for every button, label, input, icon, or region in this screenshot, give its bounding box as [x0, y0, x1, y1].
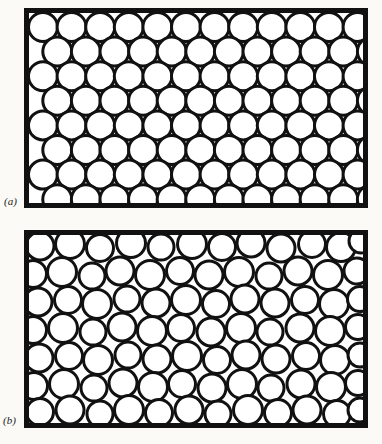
amorphous-sphere-69: [287, 370, 315, 398]
amorphous-sphere-50: [84, 346, 113, 375]
panel-a-label: (a): [4, 196, 17, 207]
figure-root: (a) (b): [0, 0, 382, 444]
amorphous-sphere-55: [232, 341, 260, 369]
amorphous-sphere-30: [203, 291, 230, 318]
amorphous-sphere-17: [167, 258, 194, 285]
amorphous-sphere-20: [256, 263, 282, 289]
amorphous-sphere-56: [262, 345, 290, 373]
amorphous-sphere-33: [292, 287, 319, 314]
amorphous-sphere-26: [83, 290, 112, 319]
amorphous-sphere-15: [106, 257, 134, 285]
amorphous-sphere-44: [257, 319, 283, 345]
amorphous-sphere-32: [261, 289, 289, 317]
amorphous-sphere-28: [142, 289, 170, 317]
amorphous-sphere-22: [314, 261, 343, 290]
amorphous-sphere-45: [286, 314, 314, 342]
amorphous-sphere-73: [56, 396, 84, 424]
amorphous-sphere-27: [114, 286, 140, 312]
amorphous-sphere-29: [172, 286, 201, 315]
amorphous-sphere-39: [108, 313, 136, 341]
amorphous-sphere-2: [87, 235, 114, 262]
amorphous-sphere-53: [173, 342, 202, 371]
amorphous-sphere-77: [175, 396, 203, 424]
amorphous-sphere-52: [143, 345, 171, 373]
amorphous-sphere-57: [293, 343, 320, 370]
amorphous-sphere-80: [265, 400, 292, 427]
amorphous-sphere-62: [81, 375, 107, 401]
amorphous-sphere-63: [109, 369, 137, 397]
amorphous-sphere-14: [79, 263, 105, 289]
amorphous-sphere-58: [321, 346, 350, 375]
amorphous-sphere-48: [25, 344, 53, 372]
amorphous-sphere-75: [115, 396, 144, 425]
amorphous-sphere-65: [169, 371, 196, 398]
amorphous-sphere-6: [209, 234, 236, 261]
amorphous-sphere-61: [50, 370, 79, 399]
panel-b-label: (b): [3, 415, 16, 426]
amorphous-sphere-25: [55, 287, 82, 314]
amorphous-sphere-68: [258, 375, 284, 401]
amorphous-sphere-13: [48, 258, 77, 287]
amorphous-sphere-31: [231, 285, 259, 313]
amorphous-sphere-40: [138, 317, 167, 346]
amorphous-sphere-49: [56, 343, 83, 370]
amorphous-sphere-54: [204, 347, 231, 374]
crystalline-structure-panel: [24, 8, 368, 208]
amorphous-sphere-41: [168, 315, 195, 342]
amorphous-sphere-79: [234, 396, 263, 425]
amorphous-sphere-46: [316, 317, 345, 346]
amorphous-sphere-37: [49, 314, 78, 343]
amorphous-sphere-42: [197, 318, 225, 346]
crystalline-packing-diagram: [24, 8, 368, 208]
crystalline-sphere-group: [29, 13, 369, 209]
amorphous-sphere-18: [195, 261, 223, 289]
amorphous-sphere-19: [225, 258, 254, 287]
amorphous-sphere-4: [148, 234, 174, 260]
amorphous-sphere-81: [293, 396, 321, 424]
amorphous-sphere-38: [80, 319, 106, 345]
amorphous-sphere-0: [26, 232, 54, 260]
amorphous-sphere-72: [27, 399, 54, 426]
amorphous-sphere-66: [198, 374, 226, 402]
amorphous-sphere-70: [317, 373, 346, 402]
amorphous-sphere-64: [139, 373, 168, 402]
amorphous-sphere-16: [136, 261, 165, 290]
amorphous-sphere-21: [284, 257, 312, 285]
amorphous-sphere-67: [228, 370, 257, 399]
amorphous-sphere-51: [115, 342, 141, 368]
amorphous-sphere-34: [320, 290, 349, 319]
amorphous-structure-panel: [24, 230, 368, 428]
amorphous-sphere-43: [227, 314, 256, 343]
amorphous-packing-diagram: [24, 230, 368, 428]
amorphous-sphere-76: [146, 400, 173, 427]
